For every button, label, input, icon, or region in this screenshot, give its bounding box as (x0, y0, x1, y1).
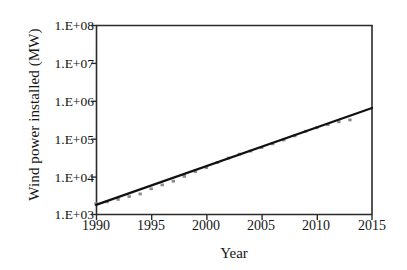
axis-frame (96, 25, 373, 215)
data-point (138, 193, 141, 196)
chart-figure: Wind power installed (MW) 1.E+08 1.E+07 … (0, 0, 407, 270)
data-point (348, 119, 351, 122)
data-point (172, 180, 175, 183)
data-point (127, 195, 130, 198)
plot-area (0, 0, 407, 270)
data-point (161, 184, 164, 187)
x-tick-marks (97, 215, 373, 221)
trend-line (96, 108, 372, 205)
y-tick-marks (91, 26, 97, 215)
data-point (150, 187, 153, 190)
